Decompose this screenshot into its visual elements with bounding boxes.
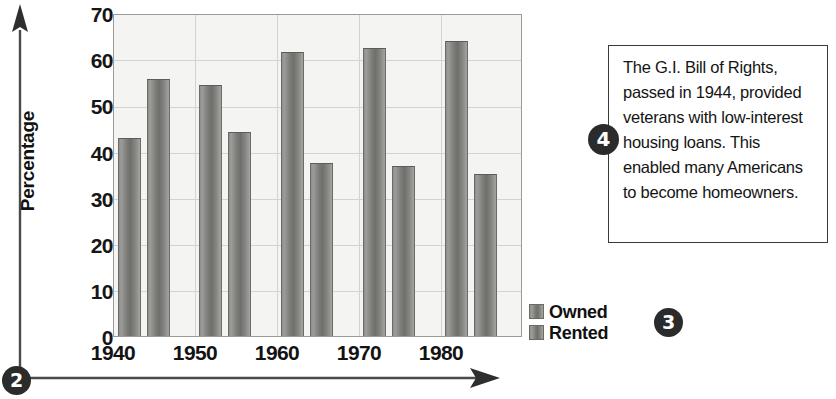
legend-item-owned: Owned: [529, 301, 608, 322]
legend-swatch-owned: [529, 304, 544, 319]
bar-owned-1940: [118, 138, 141, 336]
y-axis-title: Percentage: [17, 71, 39, 251]
bar-owned-1980: [445, 41, 468, 336]
legend-label-rented: Rented: [549, 324, 608, 342]
y-tick-70: 70: [9, 4, 113, 25]
bar-rented-1940: [147, 79, 170, 337]
legend-item-rented: Rented: [529, 322, 608, 343]
callout-marker-3: 3: [654, 308, 683, 337]
figure-root: 70 60 50 40 30 20 10 0 Percentage: [0, 0, 836, 399]
callout-marker-2-label: 2: [2, 366, 31, 395]
x-tick-1970: 1970: [318, 341, 400, 365]
bar-group-1970: [359, 15, 441, 336]
bar-owned-1960: [281, 52, 304, 336]
callout-marker-2: 2: [2, 366, 31, 395]
x-tick-1940: 1940: [72, 341, 154, 365]
x-tick-1950: 1950: [154, 341, 236, 365]
bar-rented-1960: [310, 163, 333, 336]
chart-legend: Owned Rented: [529, 301, 608, 343]
plot-area: [113, 14, 522, 337]
bar-owned-1950: [199, 85, 222, 336]
callout-marker-4: 4: [588, 124, 619, 155]
bar-group-1940: [114, 15, 195, 336]
bar-group-1950: [195, 15, 277, 336]
legend-swatch-rented: [529, 325, 544, 340]
callout-box: The G.I. Bill of Rights, passed in 1944,…: [608, 45, 828, 243]
callout-marker-3-label: 3: [654, 308, 683, 337]
bar-rented-1980: [474, 174, 497, 336]
callout-marker-4-label: 4: [588, 124, 619, 155]
bar-rented-1970: [392, 166, 415, 336]
x-tick-1980: 1980: [400, 341, 482, 365]
callout-text: The G.I. Bill of Rights, passed in 1944,…: [623, 55, 817, 205]
bar-owned-1970: [363, 48, 386, 336]
bar-chart: 70 60 50 40 30 20 10 0 Percentage: [0, 0, 560, 399]
y-tick-60: 60: [9, 50, 113, 71]
bar-rented-1950: [228, 132, 251, 336]
bar-group-1960: [277, 15, 359, 336]
y-tick-10: 10: [9, 281, 113, 302]
x-tick-1960: 1960: [236, 341, 318, 365]
bar-group-1980: [441, 15, 523, 336]
bar-series-container: [114, 15, 521, 336]
legend-label-owned: Owned: [549, 303, 608, 321]
